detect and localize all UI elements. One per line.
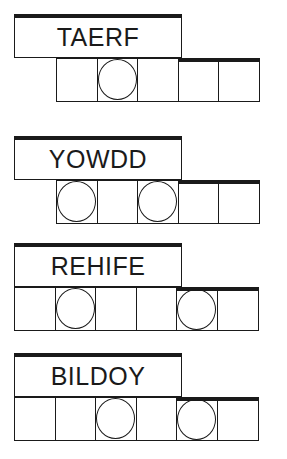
answer-cell[interactable] (14, 397, 56, 441)
answer-cell[interactable] (178, 180, 220, 224)
answer-cells (56, 58, 260, 102)
answer-cell[interactable] (14, 287, 56, 331)
answer-cell-circled[interactable] (97, 58, 139, 102)
answer-cell[interactable] (137, 58, 179, 102)
answer-cell-circled[interactable] (176, 287, 218, 331)
answer-cell[interactable] (178, 58, 220, 102)
scrambled-word-box: YOWDD (14, 136, 182, 180)
scrambled-word-text: TAERF (57, 23, 140, 52)
answer-cells (14, 287, 259, 331)
answer-cell[interactable] (95, 287, 137, 331)
scrambled-word-text: BILDOY (51, 362, 146, 391)
answer-cell[interactable] (217, 397, 259, 441)
answer-cell-circled[interactable] (95, 397, 137, 441)
scrambled-word-box: BILDOY (14, 353, 182, 397)
answer-cell[interactable] (218, 58, 260, 102)
answer-cell-circled[interactable] (56, 180, 98, 224)
answer-cell-circled[interactable] (176, 397, 218, 441)
answer-cells (14, 397, 259, 441)
answer-cell-circled[interactable] (137, 180, 179, 224)
answer-cell[interactable] (136, 397, 178, 441)
scrambled-word-box: REHIFE (14, 243, 182, 287)
scrambled-word-text: REHIFE (51, 252, 146, 281)
answer-cell[interactable] (97, 180, 139, 224)
answer-cell[interactable] (218, 180, 260, 224)
scrambled-word-text: YOWDD (49, 145, 147, 174)
answer-cell[interactable] (217, 287, 259, 331)
answer-cells (56, 180, 260, 224)
answer-cell[interactable] (136, 287, 178, 331)
answer-cell[interactable] (55, 397, 97, 441)
answer-cell-circled[interactable] (55, 287, 97, 331)
scrambled-word-box: TAERF (14, 14, 182, 58)
answer-cell[interactable] (56, 58, 98, 102)
